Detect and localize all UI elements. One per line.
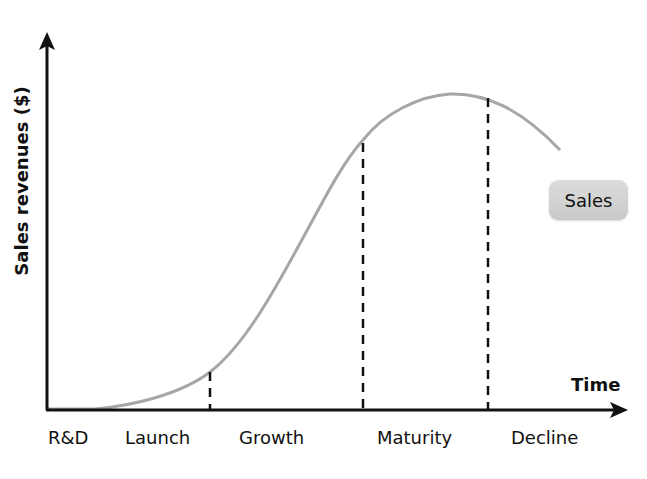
- phase-label-rd: R&D: [48, 427, 88, 448]
- phase-label-growth: Growth: [239, 427, 304, 448]
- phase-label-launch: Launch: [125, 427, 190, 448]
- legend-label: Sales: [565, 190, 613, 211]
- phase-label-decline: Decline: [511, 427, 578, 448]
- sales-curve: [47, 94, 560, 409]
- phase-label-maturity: Maturity: [377, 427, 452, 448]
- legend-sales: Sales: [549, 180, 628, 220]
- plc-diagram: [0, 0, 647, 479]
- y-axis-label: Sales revenues ($): [11, 86, 32, 275]
- x-axis-label: Time: [571, 374, 620, 395]
